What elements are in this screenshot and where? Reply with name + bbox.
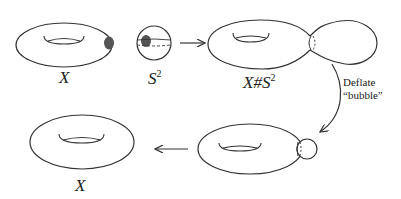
connected-sum-shape — [208, 20, 377, 69]
torus-x-top — [16, 23, 114, 67]
diagram-canvas: X S2 X#S2 Deflate “bubble” X — [0, 0, 401, 199]
label-s2-base: S — [148, 69, 157, 88]
label-connected-sum: X#S2 — [243, 72, 275, 93]
torus-x-bottom — [30, 115, 134, 169]
disk-blob — [104, 37, 114, 50]
label-sum-exp: 2 — [270, 72, 275, 83]
label-s2: S2 — [148, 68, 162, 89]
deflate-note: Deflate “bubble” — [343, 76, 383, 102]
deflate-arrow — [320, 64, 341, 132]
diagram-svg — [0, 0, 401, 199]
sphere-s2 — [137, 26, 171, 60]
label-sum-base: X#S — [243, 73, 270, 92]
deflate-line2: “bubble” — [343, 89, 383, 102]
label-s2-exp: 2 — [157, 68, 162, 79]
torus-small-bubble — [198, 124, 317, 174]
deflate-line1: Deflate — [343, 76, 383, 89]
label-x-bottom: X — [75, 176, 85, 196]
label-x-top: X — [59, 68, 69, 88]
